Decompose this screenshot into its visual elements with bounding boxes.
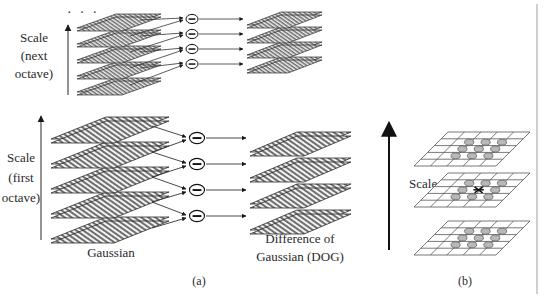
minus-circle-icon <box>190 132 205 143</box>
sift-scale-space-figure: · · · Scale (next octave) <box>0 0 555 298</box>
scale-label-next-octave-line2: (next <box>21 48 48 63</box>
minus-circle-icon <box>190 158 205 169</box>
panel-a-caption: (a) <box>192 274 205 288</box>
dog-column-label-line2: Gaussian (DOG) <box>256 249 344 264</box>
minus-circle-icon <box>190 184 205 195</box>
gaussian-column-label: Gaussian <box>87 245 135 260</box>
scale-label-first-octave-line1: Scale <box>7 150 35 165</box>
scale-label-next-octave-line1: Scale <box>20 30 48 45</box>
minus-circle-icon <box>186 14 198 23</box>
scale-label-next-octave-line3: octave) <box>15 66 53 81</box>
minus-circle-icon <box>186 29 198 38</box>
minus-circle-icon <box>190 210 205 221</box>
minus-circle-icon <box>186 59 198 68</box>
scale-label-first-octave-line2: (first <box>8 170 34 185</box>
minus-circle-icon <box>186 44 198 53</box>
octave-continuation-ellipsis: · · · <box>67 4 100 20</box>
scale-label-first-octave-line3: octave) <box>2 190 40 205</box>
dog-column-label-line1: Difference of <box>265 231 335 246</box>
panel-b-caption: (b) <box>458 274 472 288</box>
figure-canvas: · · · Scale (next octave) <box>0 0 555 298</box>
